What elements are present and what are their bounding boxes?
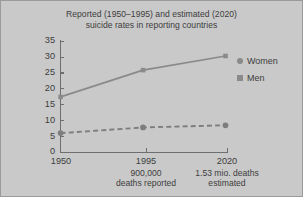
series-women-line [61,56,226,97]
legend-item-women[interactable]: Women [237,54,278,67]
data-point-women-1995 [141,68,146,73]
legend-label-men: Men [247,73,265,83]
legend-label-women: Women [247,56,278,66]
legend-marker-circle-icon [237,58,243,64]
legend-marker-square-icon [237,75,243,81]
data-point-men-1950 [58,130,64,136]
plot-area: 35 30 25 20 15 10 5 0 1950 1995 2020 9 [4,4,299,193]
legend: Women Men [237,54,278,88]
series-layer [4,4,299,193]
data-point-women-2020 [223,54,228,59]
data-point-men-1995 [140,125,146,131]
data-point-men-2020 [223,122,229,128]
data-point-women-1950 [58,95,63,100]
chart-figure: Reported (1950–1995) and estimated (2020… [0,0,303,197]
chart-canvas: Reported (1950–1995) and estimated (2020… [4,4,299,193]
legend-item-men[interactable]: Men [237,71,278,84]
series-men-markers [58,122,229,136]
